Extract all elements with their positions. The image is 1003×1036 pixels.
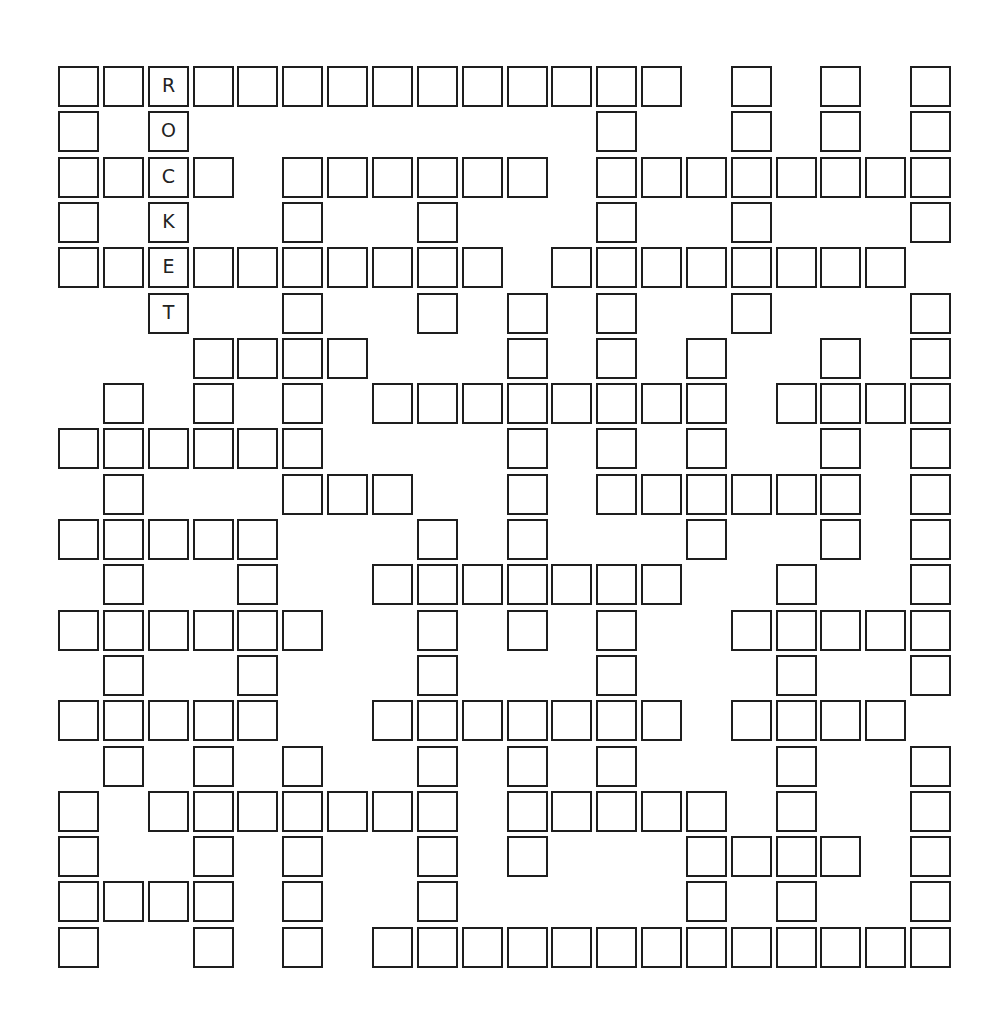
grid-cell[interactable] — [237, 247, 278, 288]
grid-cell-filled[interactable]: C — [148, 157, 189, 198]
grid-cell[interactable] — [686, 247, 727, 288]
grid-cell[interactable] — [686, 474, 727, 515]
grid-cell[interactable] — [148, 700, 189, 741]
grid-cell[interactable] — [282, 836, 323, 877]
grid-cell[interactable] — [417, 519, 458, 560]
grid-cell[interactable] — [910, 746, 951, 787]
grid-cell[interactable] — [731, 247, 772, 288]
grid-cell[interactable] — [686, 791, 727, 832]
grid-cell[interactable] — [103, 474, 144, 515]
grid-cell[interactable] — [865, 157, 906, 198]
grid-cell[interactable] — [776, 700, 817, 741]
grid-cell[interactable] — [103, 564, 144, 605]
grid-cell[interactable] — [282, 791, 323, 832]
grid-cell[interactable] — [282, 746, 323, 787]
grid-cell[interactable] — [148, 428, 189, 469]
grid-cell[interactable] — [910, 881, 951, 922]
grid-cell[interactable] — [103, 519, 144, 560]
grid-cell[interactable] — [193, 881, 234, 922]
grid-cell[interactable] — [282, 383, 323, 424]
grid-cell[interactable] — [58, 247, 99, 288]
grid-cell[interactable] — [776, 746, 817, 787]
grid-cell[interactable] — [507, 610, 548, 651]
grid-cell[interactable] — [417, 791, 458, 832]
grid-cell[interactable] — [776, 610, 817, 651]
grid-cell[interactable] — [820, 111, 861, 152]
grid-cell[interactable] — [193, 610, 234, 651]
grid-cell[interactable] — [103, 383, 144, 424]
grid-cell[interactable] — [596, 610, 637, 651]
grid-cell[interactable] — [193, 791, 234, 832]
grid-cell[interactable] — [237, 519, 278, 560]
grid-cell[interactable] — [820, 428, 861, 469]
grid-cell[interactable] — [551, 66, 592, 107]
grid-cell[interactable] — [910, 428, 951, 469]
grid-cell[interactable] — [776, 564, 817, 605]
grid-cell[interactable] — [462, 157, 503, 198]
grid-cell[interactable] — [417, 746, 458, 787]
grid-cell[interactable] — [507, 791, 548, 832]
grid-cell[interactable] — [507, 66, 548, 107]
grid-cell[interactable] — [507, 519, 548, 560]
grid-cell[interactable] — [776, 791, 817, 832]
grid-cell[interactable] — [372, 247, 413, 288]
grid-cell[interactable] — [417, 383, 458, 424]
grid-cell[interactable] — [237, 610, 278, 651]
grid-cell[interactable] — [507, 927, 548, 968]
grid-cell[interactable] — [596, 66, 637, 107]
grid-cell[interactable] — [641, 564, 682, 605]
grid-cell-filled[interactable]: E — [148, 247, 189, 288]
grid-cell[interactable] — [507, 428, 548, 469]
grid-cell[interactable] — [148, 519, 189, 560]
grid-cell[interactable] — [193, 157, 234, 198]
grid-cell[interactable] — [596, 655, 637, 696]
grid-cell[interactable] — [193, 700, 234, 741]
grid-cell[interactable] — [237, 700, 278, 741]
grid-cell[interactable] — [103, 247, 144, 288]
grid-cell[interactable] — [731, 927, 772, 968]
grid-cell[interactable] — [596, 293, 637, 334]
grid-cell[interactable] — [820, 66, 861, 107]
grid-cell-filled[interactable]: K — [148, 202, 189, 243]
grid-cell[interactable] — [551, 247, 592, 288]
grid-cell[interactable] — [820, 474, 861, 515]
grid-cell[interactable] — [58, 519, 99, 560]
grid-cell[interactable] — [148, 791, 189, 832]
grid-cell[interactable] — [820, 338, 861, 379]
grid-cell[interactable] — [776, 881, 817, 922]
grid-cell[interactable] — [910, 655, 951, 696]
grid-cell[interactable] — [58, 202, 99, 243]
grid-cell[interactable] — [237, 791, 278, 832]
grid-cell[interactable] — [58, 111, 99, 152]
grid-cell[interactable] — [417, 836, 458, 877]
grid-cell[interactable] — [910, 474, 951, 515]
grid-cell[interactable] — [507, 383, 548, 424]
grid-cell[interactable] — [596, 746, 637, 787]
grid-cell[interactable] — [551, 564, 592, 605]
grid-cell[interactable] — [148, 610, 189, 651]
grid-cell[interactable] — [596, 157, 637, 198]
grid-cell[interactable] — [103, 66, 144, 107]
grid-cell[interactable] — [731, 293, 772, 334]
grid-cell[interactable] — [910, 383, 951, 424]
grid-cell[interactable] — [372, 927, 413, 968]
grid-cell[interactable] — [507, 293, 548, 334]
grid-cell[interactable] — [282, 927, 323, 968]
grid-cell[interactable] — [820, 836, 861, 877]
grid-cell[interactable] — [372, 474, 413, 515]
grid-cell[interactable] — [731, 700, 772, 741]
grid-cell[interactable] — [58, 66, 99, 107]
grid-cell[interactable] — [103, 881, 144, 922]
grid-cell[interactable] — [193, 383, 234, 424]
grid-cell[interactable] — [820, 383, 861, 424]
grid-cell[interactable] — [58, 927, 99, 968]
grid-cell[interactable] — [731, 202, 772, 243]
grid-cell[interactable] — [596, 111, 637, 152]
grid-cell[interactable] — [417, 293, 458, 334]
grid-cell[interactable] — [596, 564, 637, 605]
grid-cell[interactable] — [462, 927, 503, 968]
grid-cell[interactable] — [58, 700, 99, 741]
grid-cell[interactable] — [193, 746, 234, 787]
grid-cell[interactable] — [596, 700, 637, 741]
grid-cell-filled[interactable]: T — [148, 293, 189, 334]
